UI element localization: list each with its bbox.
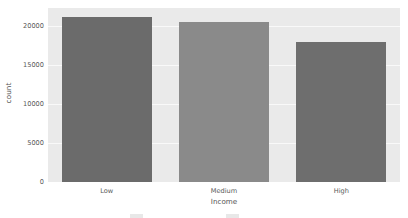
plot-area: [48, 8, 400, 182]
bar: [296, 42, 386, 182]
y-tick-label: 10000: [14, 100, 44, 108]
bar-chart-figure: count 05000100001500020000 LowMediumHigh…: [0, 0, 408, 218]
legend-swatch-icon: [130, 214, 143, 218]
y-tick-label: 15000: [14, 61, 44, 69]
bar: [179, 22, 269, 182]
legend-swatch-icon: [226, 214, 239, 218]
clipped-legend-artifact: [130, 212, 280, 218]
y-axis-tick-labels: 05000100001500020000: [14, 0, 44, 218]
x-tick-label: High: [283, 186, 400, 196]
y-tick-label: 0: [14, 178, 44, 186]
x-tick-label: Low: [48, 186, 165, 196]
y-tick-label: 20000: [14, 22, 44, 30]
bar: [62, 17, 152, 182]
y-tick-label: 5000: [14, 139, 44, 147]
x-tick-label: Medium: [165, 186, 282, 196]
x-axis-label: Income: [48, 196, 400, 207]
